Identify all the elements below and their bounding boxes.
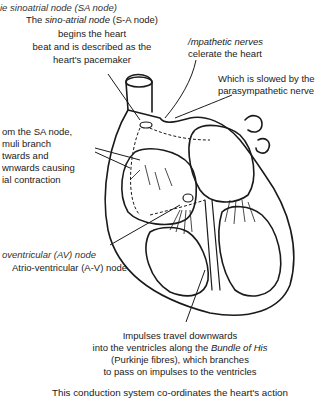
text: (S-A node): [110, 14, 158, 25]
bundle-label-line2: into the ventricles along the Bundle of …: [60, 342, 300, 353]
text: into the ventricles along the: [93, 342, 211, 353]
sa-node: [140, 122, 152, 128]
caption: This conduction system co-ordinates the …: [20, 387, 320, 398]
sa-node-label-line1: The sino-atrial node (S-A node): [12, 14, 172, 25]
bundle-label-line3: (Purkinje fibres), which branches: [60, 354, 300, 365]
sympathetic-label-line2: celerate the heart: [188, 48, 262, 59]
av-node-label: Atrio-ventricular (A-V) node: [12, 262, 127, 273]
av-node: [183, 194, 193, 202]
sa-node-cut-label: ie sinoatrial node (SA node): [0, 2, 117, 13]
sympathetic-leader: [165, 60, 196, 118]
bundle-label-line4: to pass on impulses to the ventricles: [60, 366, 300, 377]
text: The: [26, 14, 45, 25]
atrial-label-line5: ial contraction: [2, 174, 61, 185]
parasympathetic-leader: [175, 95, 232, 118]
atrial-label-line3: twards and: [2, 150, 48, 161]
av-node-cut-label: oventricular (AV) node: [2, 249, 96, 260]
text-emphasis: sino-atrial node: [45, 14, 110, 25]
sa-node-label-line2: begins the heart: [12, 28, 172, 39]
bundle-label-line1: Impulses travel downwards: [60, 330, 300, 341]
parasympathetic-label-line2: parasympathetic nerve: [218, 85, 314, 96]
atrial-label-line1: om the SA node,: [2, 126, 72, 137]
parasympathetic-label-line1: Which is slowed by the: [218, 73, 315, 84]
atrial-label-line4: wnwards causing: [2, 162, 75, 173]
atrial-leader-2: [95, 152, 130, 168]
atrial-label-line2: muli branch: [2, 138, 51, 149]
sympathetic-label-line1: /mpathetic nerves: [188, 36, 263, 47]
sa-node-label-line4: heart's pacemaker: [12, 54, 172, 65]
sa-leader: [108, 74, 140, 120]
text-emphasis: Bundle of His: [211, 342, 268, 353]
sa-node-label-line3: beat and is described as the: [12, 41, 172, 52]
